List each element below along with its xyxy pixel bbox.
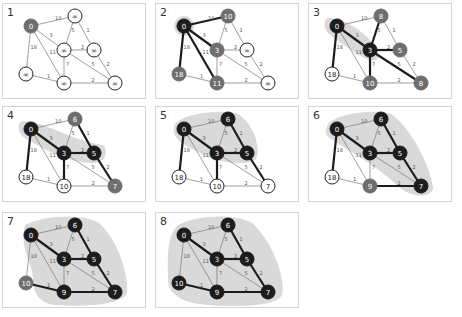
edge-weight: 5 (398, 61, 401, 67)
node-distance: 5 (245, 150, 249, 158)
edge-weight: 11 (50, 258, 56, 264)
step-panel-4: 1031811512752120635181074 (2, 106, 146, 202)
edge-weight: 5 (92, 164, 95, 170)
step-number: 2 (160, 6, 167, 19)
edge-weight: 11 (356, 152, 362, 158)
node-distance: 5 (245, 256, 249, 264)
graph: 103181151275212063518107 (3, 107, 147, 203)
edge-weight: 11 (203, 258, 209, 264)
graph: 1031811512752120∞∞∞∞∞∞ (3, 4, 147, 100)
edge-weight: 7 (372, 164, 375, 170)
node-distance: 9 (215, 289, 219, 297)
step-panel-7: 103181151275212063510977 (2, 212, 146, 308)
node-distance: 7 (266, 183, 270, 191)
node-distance: 10 (224, 13, 233, 21)
edge-weight: 7 (219, 164, 222, 170)
node-distance: 9 (62, 289, 66, 297)
step-number: 7 (7, 215, 14, 228)
node-distance: 0 (182, 23, 186, 31)
step-number: 1 (7, 6, 14, 19)
edge-weight: 2 (81, 147, 84, 153)
edge-weight: 3 (203, 241, 206, 247)
node-distance: 18 (175, 174, 184, 182)
graph: 1031811512752120103∞1811∞ (156, 4, 300, 100)
node-distance: ∞ (265, 80, 271, 88)
node-distance: 0 (29, 23, 33, 31)
edge-weight: 11 (356, 49, 362, 55)
edge-weight: 2 (398, 180, 401, 186)
edge-weight: 2 (260, 164, 263, 170)
node-distance: 7 (266, 289, 270, 297)
edge-weight: 11 (50, 49, 56, 55)
node-distance: 5 (398, 150, 402, 158)
edge-weight: 18 (337, 44, 343, 50)
edge-weight: 5 (245, 270, 248, 276)
edge-weight: 5 (245, 61, 248, 67)
edge-weight: 2 (81, 44, 84, 50)
edge-weight: 2 (260, 61, 263, 67)
node-distance: 0 (335, 126, 339, 134)
edge-weight: 18 (31, 44, 37, 50)
edge-weight: 2 (234, 253, 237, 259)
edge-weight: 18 (31, 147, 37, 153)
node-distance: ∞ (112, 80, 118, 88)
edge-weight: 2 (92, 77, 95, 83)
node-distance: ∞ (91, 47, 97, 55)
step-number: 4 (7, 109, 14, 122)
graph: 103181151275212063518107 (156, 107, 300, 203)
node-distance: 0 (29, 126, 33, 134)
edge-weight: 2 (234, 147, 237, 153)
edge-weight: 1 (47, 73, 50, 79)
graph: 10318115127521206351097 (156, 213, 300, 309)
edge-weight: 7 (66, 270, 69, 276)
edge-weight: 11 (50, 152, 56, 158)
edge-weight: 10 (55, 118, 61, 124)
edge-weight: 7 (219, 61, 222, 67)
edge-weight: 18 (337, 147, 343, 153)
node-distance: 6 (379, 116, 384, 124)
edge-weight: 5 (225, 236, 228, 242)
node-distance: 18 (175, 71, 184, 79)
node-distance: 3 (62, 256, 66, 264)
edge-weight: 3 (50, 135, 53, 141)
node-distance: 6 (73, 116, 78, 124)
edge-weight: 10 (55, 15, 61, 21)
edge-weight: 1 (200, 73, 203, 79)
node-distance: 3 (368, 150, 372, 158)
edge-weight: 5 (92, 61, 95, 67)
edge-weight: 5 (225, 27, 228, 33)
edge-weight: 5 (398, 164, 401, 170)
edge-weight: 2 (245, 180, 248, 186)
node-distance: 9 (368, 183, 372, 191)
edge-weight: 3 (356, 135, 359, 141)
node-distance: 3 (215, 150, 219, 158)
node-distance: 18 (22, 174, 31, 182)
node-distance: 10 (213, 183, 222, 191)
node-distance: 7 (419, 183, 423, 191)
edge-weight: 18 (184, 147, 190, 153)
step-panel-6: 103181151275212063518976 (308, 106, 452, 202)
edge-weight: 2 (413, 164, 416, 170)
node-distance: 0 (335, 23, 339, 31)
edge-weight: 1 (47, 176, 50, 182)
node-distance: 18 (328, 174, 337, 182)
edge-weight: 1 (353, 73, 356, 79)
step-number: 3 (313, 6, 320, 19)
node-distance: 7 (113, 183, 117, 191)
edge-weight: 2 (398, 77, 401, 83)
step-panel-2: 1031811512752120103∞1811∞2 (155, 3, 299, 99)
edge-weight: 1 (240, 27, 243, 33)
node-distance: 10 (366, 80, 375, 88)
edge-weight: 2 (107, 270, 110, 276)
node-distance: ∞ (61, 80, 67, 88)
edge-weight: 10 (208, 15, 214, 21)
edge-weight: 7 (219, 270, 222, 276)
node-distance: ∞ (72, 13, 78, 21)
step-panel-5: 1031811512752120635181075 (155, 106, 299, 202)
node-distance: 6 (226, 222, 231, 230)
edge-weight: 5 (72, 236, 75, 242)
edge-weight: 2 (81, 253, 84, 259)
node-distance: 10 (175, 280, 184, 288)
edge-weight: 11 (203, 152, 209, 158)
node-distance: 8 (379, 13, 383, 21)
